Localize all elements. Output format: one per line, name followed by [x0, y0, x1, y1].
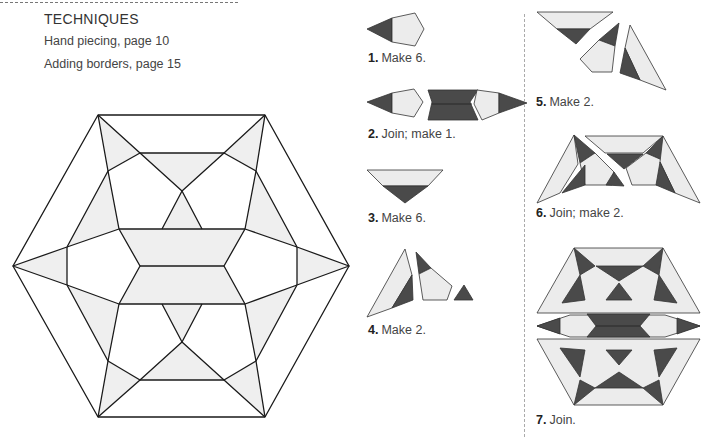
step-1-caption: 1.Make 6.	[368, 51, 426, 65]
step-4-caption: 4.Make 2.	[368, 323, 426, 337]
step3-diagram	[367, 170, 443, 203]
step-2-caption: 2.Join; make 1.	[368, 127, 456, 141]
step-7-caption: 7.Join.	[536, 413, 576, 427]
step2-diagram	[367, 89, 527, 120]
step-6-caption: 6.Join; make 2.	[536, 206, 624, 220]
vertical-dashed-divider	[524, 14, 525, 437]
step5-diagram	[537, 12, 666, 90]
step7-diagram	[537, 248, 700, 405]
step1-diagram	[367, 13, 424, 46]
step-5-caption: 5.Make 2.	[536, 95, 594, 109]
step4-diagram	[367, 249, 473, 317]
step6-diagram	[537, 135, 700, 203]
step-3-caption: 3.Make 6.	[368, 211, 426, 225]
